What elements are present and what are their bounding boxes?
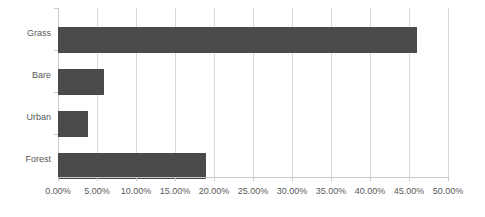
bar-chart: Grass Bare Urban Forest 0.00% 5.00% 10.0… bbox=[0, 0, 485, 217]
category-axis-tick-3 bbox=[54, 134, 58, 135]
x-axis-tick-6 bbox=[292, 177, 293, 181]
category-label-bare-text: Bare bbox=[32, 70, 51, 80]
x-axis-label-10: 50.00% bbox=[418, 186, 478, 196]
category-label-forest-text: Forest bbox=[25, 154, 51, 164]
category-label-bare: Bare bbox=[0, 70, 51, 80]
bar-bare[interactable] bbox=[58, 69, 104, 95]
category-label-forest: Forest bbox=[0, 154, 51, 164]
category-label-urban-text: Urban bbox=[26, 112, 51, 122]
bar-grass[interactable] bbox=[58, 27, 417, 53]
x-axis-tick-2 bbox=[136, 177, 137, 181]
x-axis-tick-10 bbox=[448, 177, 449, 181]
x-axis-tick-3 bbox=[175, 177, 176, 181]
category-axis-tick-1 bbox=[54, 50, 58, 51]
x-axis-tick-0 bbox=[58, 177, 59, 181]
category-label-grass-text: Grass bbox=[27, 28, 51, 38]
category-axis-tick-2 bbox=[54, 92, 58, 93]
bar-forest[interactable] bbox=[58, 153, 206, 179]
gridline-10 bbox=[448, 8, 449, 177]
x-axis-tick-7 bbox=[331, 177, 332, 181]
bar-urban[interactable] bbox=[58, 111, 88, 137]
x-axis-tick-4 bbox=[214, 177, 215, 181]
plot-area bbox=[58, 8, 448, 177]
x-axis-tick-1 bbox=[97, 177, 98, 181]
category-label-urban: Urban bbox=[0, 112, 51, 122]
x-axis-tick-5 bbox=[253, 177, 254, 181]
x-axis-tick-9 bbox=[409, 177, 410, 181]
category-label-grass: Grass bbox=[0, 28, 51, 38]
category-axis-tick-0 bbox=[54, 8, 58, 9]
x-axis-tick-8 bbox=[370, 177, 371, 181]
